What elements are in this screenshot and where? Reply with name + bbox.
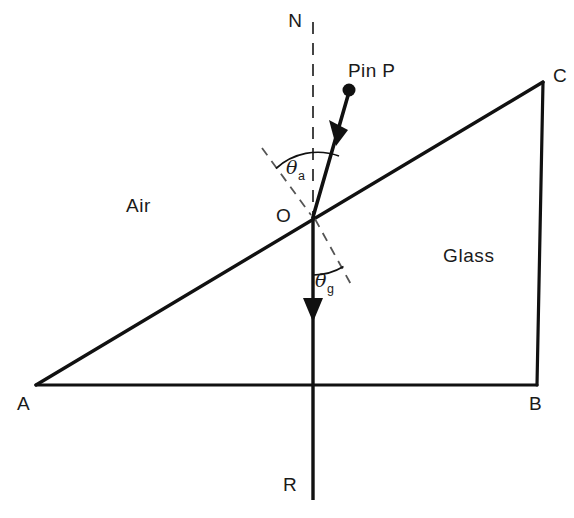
label-origin-o: O [276, 205, 291, 226]
prism-hypotenuse-edge-ac [36, 82, 543, 385]
label-vertex-c: C [553, 65, 567, 86]
label-ray-r: R [283, 474, 297, 495]
refracted-ray-group [303, 217, 323, 500]
label-vertex-b: B [529, 393, 542, 414]
label-theta-air: θ a [286, 156, 305, 183]
label-medium-glass: Glass [443, 245, 495, 266]
label-normal-n: N [288, 10, 302, 31]
prism-right-edge-bc [537, 82, 543, 385]
label-pin-p: Pin P [348, 60, 395, 81]
theta-air-subscript: a [298, 169, 305, 183]
optics-refraction-figure: N Pin P C A B O Air Glass R θ a θ g [0, 0, 574, 518]
theta-glass-subscript: g [327, 282, 334, 296]
optics-diagram-svg: N Pin P C A B O Air Glass R θ a θ g [0, 0, 574, 518]
label-medium-air: Air [126, 195, 151, 216]
prism-triangle [36, 82, 543, 385]
theta-glass-symbol: θ [315, 269, 327, 291]
refracted-ray-arrowhead [303, 298, 323, 322]
label-vertex-a: A [17, 393, 30, 414]
theta-air-symbol: θ [286, 156, 298, 178]
incident-ray-line [313, 92, 349, 217]
pin-dot [343, 84, 356, 97]
